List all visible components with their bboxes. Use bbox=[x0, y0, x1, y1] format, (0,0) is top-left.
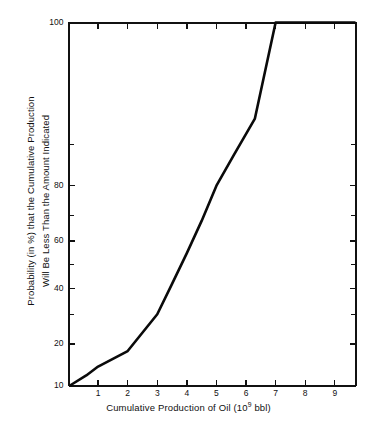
plot-frame bbox=[69, 23, 356, 386]
x-tick-label: 9 bbox=[332, 388, 337, 398]
y-axis-title: Probability (in %) that the Cumulative P… bbox=[23, 41, 53, 361]
x-tick-label: 7 bbox=[273, 388, 278, 398]
chart-figure: 1020406080100 123456789 Cumulative Produ… bbox=[0, 0, 377, 438]
y-tick-label: 100 bbox=[49, 17, 63, 27]
x-tick-label: 1 bbox=[96, 388, 101, 398]
x-axis-title: Cumulative Production of Oil (109 bbl) bbox=[0, 402, 377, 413]
y-tick-label: 10 bbox=[54, 380, 64, 390]
x-axis-title-main: Cumulative Production of Oil (10 bbox=[106, 402, 248, 413]
x-tick-label: 5 bbox=[214, 388, 219, 398]
data-series-line-0 bbox=[70, 23, 356, 386]
data-series-group bbox=[70, 23, 356, 386]
y-tick-label: 40 bbox=[54, 283, 64, 293]
x-tick-label: 6 bbox=[244, 388, 249, 398]
x-tick-label: 2 bbox=[125, 388, 130, 398]
x-axis-title-suffix: bbl) bbox=[252, 402, 271, 413]
x-tick-label: 4 bbox=[184, 388, 189, 398]
chart-plot-area: 1020406080100 123456789 bbox=[0, 0, 377, 438]
ticks-group bbox=[69, 23, 356, 386]
y-axis-title-line-2: Will Be Less Than the Amount Indicated bbox=[38, 41, 53, 361]
y-tick-label: 20 bbox=[54, 338, 64, 348]
x-tick-labels: 123456789 bbox=[96, 388, 338, 398]
axes-group bbox=[69, 23, 356, 386]
y-tick-label: 60 bbox=[54, 235, 64, 245]
x-tick-label: 8 bbox=[303, 388, 308, 398]
y-axis-title-line-1: Probability (in %) that the Cumulative P… bbox=[23, 41, 38, 361]
x-tick-label: 3 bbox=[155, 388, 160, 398]
y-tick-label: 80 bbox=[54, 180, 64, 190]
